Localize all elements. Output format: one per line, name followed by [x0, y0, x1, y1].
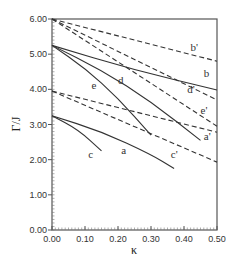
x-axis-title: κ: [131, 243, 137, 257]
y-axis: 0.001.002.003.004.005.006.00: [29, 14, 54, 235]
curve-label: e': [201, 104, 208, 116]
x-tick-label: 0.40: [175, 234, 193, 244]
curve-label: e: [92, 79, 97, 91]
y-tick-label: 5.00: [29, 49, 47, 59]
y-tick-label: 6.00: [29, 14, 47, 24]
curve-label: a': [204, 130, 211, 142]
x-tick-label: 0.50: [208, 234, 226, 244]
curve-d: [52, 45, 201, 140]
curve-label: d': [187, 83, 195, 95]
curve-label: b': [191, 41, 199, 53]
y-axis-title: Γ/J: [9, 116, 23, 131]
line-chart: 0.001.002.003.004.005.006.00 0.000.100.2…: [0, 0, 239, 269]
x-tick-label: 0.30: [142, 234, 160, 244]
y-tick-label: 1.00: [29, 190, 47, 200]
curve-label: b: [204, 67, 210, 79]
y-tick-label: 2.00: [29, 155, 47, 165]
x-axis: 0.000.100.200.300.400.50: [43, 226, 226, 244]
curve-label: a: [121, 144, 126, 156]
x-tick-label: 0.10: [76, 234, 94, 244]
y-tick-label: 3.00: [29, 120, 47, 130]
curve-labels: b'd'e'bdea'c'ac: [88, 41, 210, 160]
curve-e-prime: [52, 19, 217, 126]
curve-a: [52, 116, 174, 169]
curve-e: [52, 45, 151, 135]
curve-c: [52, 116, 102, 151]
x-tick-label: 0.00: [43, 234, 61, 244]
curve-label: c': [171, 148, 178, 160]
y-tick-label: 4.00: [29, 84, 47, 94]
curve-label: c: [88, 148, 93, 160]
x-tick-label: 0.20: [109, 234, 127, 244]
curve-label: d: [118, 74, 124, 86]
